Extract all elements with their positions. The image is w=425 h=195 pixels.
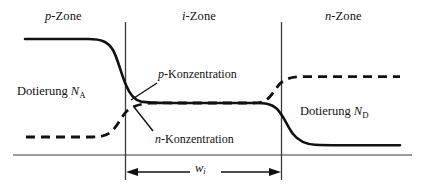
wi-dimension-label: wi (195, 162, 206, 176)
n-concentration-label: n-Konzentration (155, 133, 234, 145)
doping-acceptor-text: Dotierung (17, 84, 71, 98)
doping-donor-subscript: D (362, 110, 368, 120)
doping-acceptor-symbol: N (71, 84, 79, 98)
doping-label-acceptor: Dotierung NA (17, 85, 85, 99)
zone-label-i: i-Zone (182, 10, 216, 23)
zone-i-suffix: -Zone (186, 9, 216, 23)
doping-donor-symbol: N (354, 104, 362, 118)
doping-label-donor: Dotierung ND (300, 105, 368, 119)
zone-label-n: n-Zone (325, 10, 362, 23)
wi-subscript: i (203, 166, 205, 176)
doping-acceptor-subscript: A (79, 90, 85, 100)
doping-donor-text: Dotierung (300, 104, 354, 118)
n-concentration-leader-line (134, 107, 153, 131)
zone-p-suffix: -Zone (51, 9, 81, 23)
arrow-head-right (269, 168, 281, 176)
p-concentration-leader-line (131, 83, 157, 100)
p-concentration-label: p-Konzentration (158, 68, 237, 80)
p-concentration-text: -Konzentration (164, 67, 237, 81)
pin-diode-concentration-diagram: p-Zone i-Zone n-Zone Dotierung NA Dotier… (0, 0, 425, 195)
zone-n-suffix: -Zone (331, 9, 361, 23)
n-concentration-text: -Konzentration (161, 132, 234, 146)
arrow-head-left (126, 168, 138, 176)
zone-label-p: p-Zone (45, 10, 82, 23)
